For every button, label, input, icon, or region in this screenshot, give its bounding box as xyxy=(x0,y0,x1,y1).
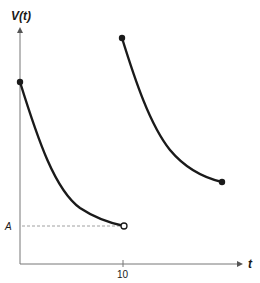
chart: V(t) t 10 A xyxy=(0,0,260,283)
y-level-label-A: A xyxy=(4,221,12,232)
open-dot-end-1 xyxy=(121,223,127,229)
curve-segment-1 xyxy=(20,82,124,226)
closed-dot-start-1 xyxy=(17,79,23,85)
x-tick-label-10: 10 xyxy=(117,269,129,280)
x-axis-label: t xyxy=(248,257,253,271)
closed-dot-end-2 xyxy=(219,179,225,185)
y-axis-label: V(t) xyxy=(11,9,31,23)
curve-segment-2 xyxy=(122,38,222,182)
closed-dot-start-2 xyxy=(119,35,125,41)
